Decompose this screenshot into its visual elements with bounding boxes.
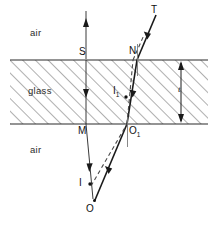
point-dot-I1 (124, 95, 127, 98)
emergent-ray-arrow (144, 32, 151, 40)
axis-arrow-down-lower (87, 163, 93, 172)
label-point-M: M (78, 126, 86, 136)
virtual-ray-I-to-O1 (91, 124, 127, 186)
point-dot-I (88, 182, 91, 185)
label-point-O: O (86, 204, 94, 214)
label-point-O1-subscript: 1 (137, 131, 141, 138)
label-point-T: T (151, 5, 157, 15)
label-point-I1-subscript: 1 (116, 91, 120, 98)
point-dot-O (93, 199, 96, 202)
axis-ray-below-slab (86, 124, 93, 199)
optics-figure: air glass air S N T M O1 I1 I O t (0, 0, 216, 228)
label-point-S: S (79, 47, 86, 57)
label-point-N: N (129, 46, 136, 56)
label-point-O1-base: O (129, 125, 137, 136)
axis-arrow-up (83, 18, 89, 27)
label-point-I: I (79, 178, 82, 188)
label-air-lower: air (30, 145, 41, 155)
label-air-upper: air (30, 28, 41, 38)
label-point-O1: O1 (129, 126, 140, 136)
label-glass: glass (28, 86, 52, 96)
label-point-I1: I1 (113, 86, 119, 96)
incident-ray-O-to-O1 (95, 124, 127, 200)
label-thickness-t: t (178, 85, 181, 94)
